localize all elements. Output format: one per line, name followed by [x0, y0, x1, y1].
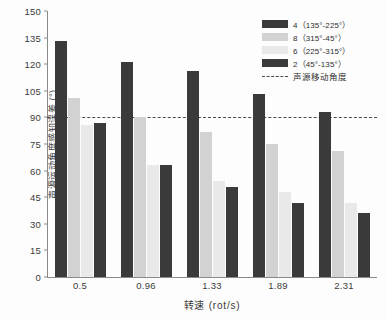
legend-item[interactable]: 6（225°-315°） — [262, 44, 382, 56]
bar — [292, 203, 304, 277]
bar — [319, 112, 331, 277]
bar-group — [187, 11, 238, 277]
bar — [332, 151, 344, 277]
bar — [213, 181, 225, 277]
y-axis-title-container: 声源运动角度感知误差 (°) — [0, 11, 18, 277]
x-tick-label: 1.89 — [251, 280, 305, 291]
legend-item-label: 声源移动角度 — [293, 70, 348, 82]
x-axis-title: 转速 (rot/s) — [47, 297, 377, 312]
bar — [134, 117, 146, 277]
bar-chart: 声源运动角度感知误差 (°) 0153045607590105120135150… — [0, 0, 386, 320]
bar — [81, 125, 93, 278]
bar — [160, 165, 172, 277]
x-tick-label: 1.33 — [185, 280, 239, 291]
legend-color-swatch — [262, 33, 288, 41]
bar — [226, 187, 238, 277]
chart-legend: 4（135°-225°）8（315°-45°）6（225°-315°）2（45°… — [262, 18, 382, 82]
bar-group — [55, 11, 106, 277]
legend-item-label: 8（315°-45°） — [293, 32, 346, 43]
legend-item-label: 2（45°-135°） — [293, 58, 346, 69]
legend-item[interactable]: 声源移动角度 — [262, 70, 382, 82]
legend-dash-swatch — [262, 72, 288, 80]
legend-item[interactable]: 8（315°-45°） — [262, 31, 382, 43]
bar — [279, 192, 291, 277]
bar — [147, 165, 159, 277]
bar — [358, 213, 370, 277]
bar — [345, 203, 357, 277]
legend-color-swatch — [262, 59, 288, 67]
bar-group — [121, 11, 172, 277]
bar — [68, 98, 80, 277]
legend-color-swatch — [262, 46, 288, 54]
bar — [55, 41, 67, 277]
bar — [187, 71, 199, 277]
bar — [253, 94, 265, 277]
bar — [121, 62, 133, 277]
x-axis-ticks: 0.50.961.331.892.31 — [47, 280, 377, 291]
x-tick-label: 2.31 — [317, 280, 371, 291]
legend-item-label: 4（135°-225°） — [293, 19, 350, 30]
bar — [94, 123, 106, 277]
legend-item[interactable]: 4（135°-225°） — [262, 18, 382, 30]
bar — [200, 132, 212, 277]
x-axis-line — [47, 277, 377, 278]
x-tick-label: 0.96 — [119, 280, 173, 291]
bar — [266, 144, 278, 277]
x-tick-label: 0.5 — [53, 280, 107, 291]
legend-item-label: 6（225°-315°） — [293, 45, 350, 56]
legend-color-swatch — [262, 20, 288, 28]
legend-item[interactable]: 2（45°-135°） — [262, 57, 382, 69]
